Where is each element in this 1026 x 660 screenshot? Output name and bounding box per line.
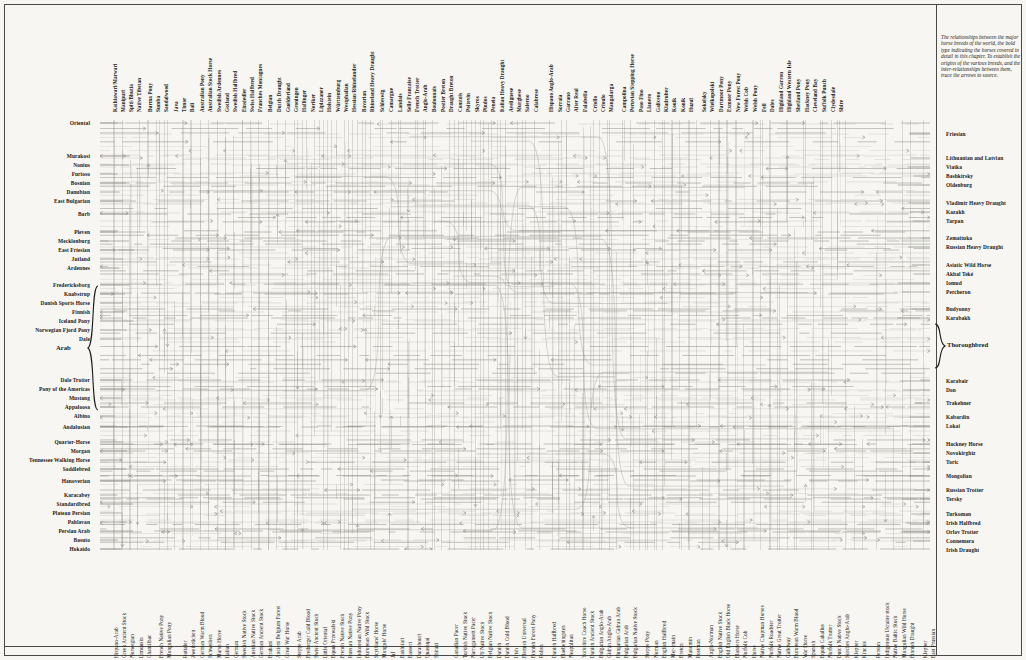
top-breed-label: Kathiawari/Marwari [113,64,118,112]
left-breed-label: Standardbred [57,501,90,507]
left-breed-label: Murakosi [67,153,90,159]
bottom-breed-label: Klepper [854,641,859,658]
bottom-breed-label: Norfolk Trotter [828,625,833,658]
left-breed-label: Hanoverian [62,478,90,484]
top-breed-label: Bavarian [362,91,367,112]
right-breed-label: Hackney Horse [946,441,983,447]
left-breed-label: Nonius [73,162,90,168]
left-breed-label: East Friesian [58,247,90,253]
bottom-breed-label: Bulgarian Native Stock [633,607,638,658]
top-breed-label: Italian Heavy Draught [500,60,505,112]
bottom-breed-label: Danish Ancient Stock [590,611,595,658]
bottom-breed-label: Basseri [408,642,413,658]
bottom-breed-label: Schweiken [208,634,213,658]
top-breed-label: Sorraia [558,95,563,112]
right-breed-label: Kabardin [946,414,969,420]
bottom-breed-label: Hungarian Gidran Arab [616,607,621,658]
bottom-breed-label: Finnish Draught [910,623,915,658]
bottom-breed-label: Norwegian [130,634,135,658]
bottom-breed-label: Equus Przewalski [331,619,336,658]
top-breed-label: Poitevin [466,93,471,112]
bottom-breed-label: Native Baltic Stock [893,615,898,658]
bottom-breed-label: Bakhtiari [400,638,405,658]
top-breed-label: Shetland Pony [796,79,801,112]
bottom-breed-label: Galloway [786,637,791,658]
bottom-breed-label: Swiss Ancient Stock [314,613,319,658]
right-breed-label: Karabakh [946,315,970,321]
top-breed-label: Hispano Anglo-Arab [549,64,554,112]
right-breed-label: Novokirghiz [946,450,976,456]
bottom-breed-label: Danish Halfbred [552,622,557,658]
top-breed-label: Crioulo [601,94,606,112]
left-breed-label: Jutland [72,256,90,262]
bottom-breed-label: Canadian Pacer [454,624,459,658]
bottom-breed-label: Norfolk Roadster [769,620,774,658]
thoroughbred-brace [933,322,947,370]
lineage-grid [100,120,930,550]
bottom-breed-label: Mongolian Pony [167,622,172,658]
bottom-breed-label: Great War Horse [285,622,290,658]
top-breed-label: Postier Breton [441,79,446,112]
bottom-breed-label: Postman [696,639,701,658]
top-breed-label: Anglo-Arab [423,84,428,112]
left-breed-label: Pahlavan [68,519,90,525]
top-breed-label: Kladruber [664,87,669,112]
left-breed-label: Pony of the Americas [39,386,90,392]
left-breed-label: Norwegian Fjord Pony [35,327,90,333]
top-breed-label: Kouik [672,98,677,112]
bottom-breed-label: Mer-lmain [671,635,676,658]
bottom-breed-label: US Native Stock [480,622,485,658]
top-label-row: Kathiawari/MarwariManipuriSpiti/BhutiaNa… [0,0,1026,120]
right-breed-label: Don [946,387,956,393]
bottom-breed-label: Steppe Pony [645,631,650,658]
top-breed-label: Lipizzaner [319,87,324,112]
bottom-breed-label: Irish [514,648,519,658]
right-breed-label: Trakehner [946,400,971,406]
bottom-breed-label: French Native Stock [340,613,345,658]
bottom-breed-label: Klepper [923,641,928,658]
left-breed-label: Fredericksborg [53,282,90,288]
horse-breed-chart-plate: The relationships between the major hors… [0,0,1026,660]
bottom-breed-label: Little Oriental [323,627,328,658]
top-breed-label: Peneia [491,97,496,112]
top-breed-label: Llanero [647,94,652,112]
left-breed-label: Danish Sports Horse [40,300,90,306]
left-breed-label: Tennessee Walking Horse [29,457,90,463]
bottom-breed-label: Sorches Anglo-Arab [845,614,850,658]
bottom-breed-label: Turkish Native Stock [463,612,468,658]
top-breed-label: Criollo [593,96,598,112]
bottom-breed-label: Freiberger Cold Blood [306,609,311,658]
arab-brace [86,284,100,412]
bottom-breed-label: Bulgarian Arab [624,625,629,658]
bottom-breed-label: Italian [225,644,230,658]
top-breed-label: Clydesdale [831,87,836,112]
top-breed-label: Highland Garron [779,72,784,112]
top-breed-label: Highland Western Isle [787,60,792,112]
bottom-breed-label: Flemish Universal [522,618,527,658]
bottom-breed-label: Flanders Horse [735,625,740,658]
top-breed-label: French Trotter [415,78,420,112]
top-breed-label: Native Tibetan [137,78,142,112]
bottom-breed-label: Mongols' Horse [382,624,387,658]
left-breed-label: Oriental [70,120,90,126]
top-breed-label: Swiss Halfbred [250,77,255,112]
right-breed-label: Zemaituka [946,235,972,241]
bottom-breed-label: Greek Ancient Stock [122,613,127,658]
top-breed-label: Dutch Draught [277,77,282,112]
bottom-breed-label: Manomin [688,637,693,658]
top-breed-label: Draught Breton [449,75,454,112]
left-breed-label: Karacabey [64,492,90,498]
right-breed-label: Lokai [946,423,960,429]
top-breed-label: Suffolk Punch [822,79,827,112]
right-breed-label: Friesian [946,131,966,137]
bottom-breed-label: Rottaler [183,640,188,658]
arab-group-label: Arab [56,344,71,351]
bottom-breed-label: Indonesian Native Pony [357,606,362,658]
top-breed-label: Exmoor Pony [727,81,732,112]
right-breed-label: Budyonny [946,306,970,312]
bottom-breed-label: Russian Native Pony [348,613,353,658]
bottom-breed-label: Mongolian Wild Horse [902,608,907,658]
bottom-breed-label: Yorkshire Coach Horse [582,607,587,658]
left-breed-label: Persian Arab [58,528,90,534]
bottom-breed-label: Chantilhac [147,635,152,658]
